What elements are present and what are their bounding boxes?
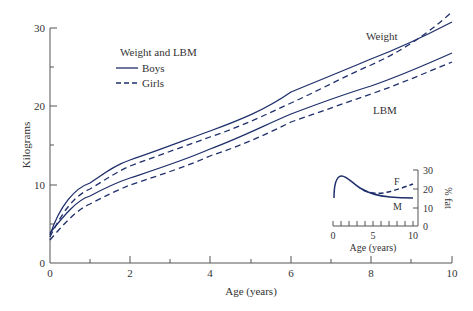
y-tick-label: 20	[34, 100, 46, 112]
inset-y-tick-label: 30	[423, 165, 433, 176]
legend-title: Weight and LBM	[120, 46, 197, 58]
inset-x-tick-label: 5	[371, 230, 376, 241]
main-axes	[50, 28, 452, 263]
x-tick-label: 8	[368, 267, 374, 279]
inset-series	[334, 176, 413, 198]
x-tick-label: 0	[47, 267, 53, 279]
inset-x-tick-label: 10	[408, 230, 418, 241]
inset-label-f: F	[394, 176, 400, 187]
x-tick-label: 10	[447, 267, 459, 279]
inset-y-tick-label: 10	[423, 203, 433, 214]
series-lbm-girls	[50, 62, 452, 240]
series-lbm-boys	[50, 53, 452, 233]
x-axis-title: Age (years)	[225, 285, 277, 298]
chart-svg: 30 20 10 0 0 2 4 6 8 10 Age (years) Kilo…	[0, 0, 473, 311]
legend-girls-label: Girls	[142, 77, 164, 89]
x-tick-label: 6	[288, 267, 294, 279]
inset-y-axis-title: % fat	[443, 187, 454, 209]
inset-x-tick-labels: 0 5 10	[331, 230, 419, 241]
inset-x-tick-label: 0	[331, 230, 336, 241]
inset-y-tick-label: 20	[423, 184, 433, 195]
growth-chart: 30 20 10 0 0 2 4 6 8 10 Age (years) Kilo…	[0, 0, 473, 311]
inset-x-axis-title: Age (years)	[350, 242, 397, 254]
data-series	[50, 12, 452, 240]
y-tick-label: 10	[34, 179, 46, 191]
series-weight-girls	[50, 12, 452, 237]
y-tick-label: 0	[40, 257, 46, 269]
y-tick-label: 30	[34, 22, 46, 34]
series-weight-boys	[50, 22, 452, 235]
legend-boys-label: Boys	[142, 62, 165, 74]
y-tick-labels: 30 20 10 0	[34, 22, 46, 269]
inset-y-tick-labels: 30 20 10 0	[423, 165, 433, 232]
x-tick-labels: 0 2 4 6 8 10	[47, 267, 458, 279]
annotation-weight: Weight	[366, 30, 398, 42]
x-tick-label: 2	[127, 267, 133, 279]
inset-series-m	[334, 176, 413, 198]
inset-y-tick-label: 0	[423, 221, 428, 232]
annotation-lbm: LBM	[373, 104, 397, 116]
inset-chart: 30 20 10 0 0 5 10 Age (years) % fat F M	[331, 165, 455, 254]
inset-series-f	[363, 184, 413, 193]
y-axis-title: Kilograms	[20, 122, 32, 168]
inset-label-m: M	[393, 201, 402, 212]
legend: Weight and LBM Boys Girls	[116, 46, 197, 89]
x-tick-label: 4	[207, 267, 213, 279]
